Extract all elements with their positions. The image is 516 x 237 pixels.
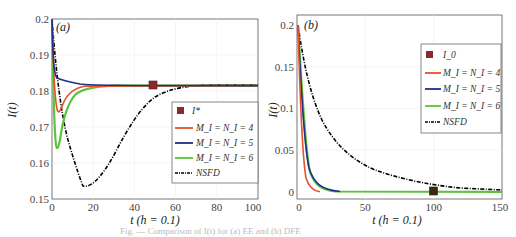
ytick: 0.2 — [35, 13, 49, 25]
xtick: 150 — [492, 201, 509, 213]
legend-label: I* — [191, 106, 200, 116]
ytick: 0.19 — [30, 49, 50, 61]
initial-point-marker-b — [430, 187, 438, 195]
ytick: 0.17 — [30, 121, 50, 133]
x-ticks-a: 0 20 40 60 80 100 — [49, 201, 262, 213]
x-axis-label-a: t (h = 0.1) — [130, 213, 179, 227]
y-ticks-a: 0.2 0.19 0.18 0.17 0.16 0.15 — [30, 13, 50, 205]
ytick: 0.05 — [275, 144, 295, 156]
figure: 0.2 0.19 0.18 0.17 0.16 0.15 0 20 40 60 … — [0, 0, 516, 237]
xtick: 0 — [49, 201, 55, 213]
legend-label: M_I = N_I = 6 — [195, 153, 253, 163]
xtick: 40 — [129, 201, 141, 213]
y-axis-label-b: I(t) — [266, 102, 280, 118]
panel-label-b: (b) — [304, 18, 318, 32]
xtick: 80 — [211, 201, 223, 213]
ytick: 0.18 — [30, 85, 50, 97]
ytick: 0 — [289, 186, 295, 198]
ytick: 0.2 — [280, 19, 294, 31]
legend-label: M_I = N_I = 5 — [442, 84, 500, 94]
legend-a: I* M_I = N_I = 4 M_I = N_I = 5 M_I = N_I… — [172, 102, 258, 183]
xtick: 0 — [296, 201, 302, 213]
legend-label: NSFD — [195, 168, 220, 178]
y-axis-label-a: I(t) — [5, 102, 19, 118]
equilibrium-marker-a — [149, 81, 157, 89]
legend-label: M_I = N_I = 4 — [195, 123, 253, 133]
legend-label: M_I = N_I = 4 — [442, 68, 500, 78]
panel-a: 0.2 0.19 0.18 0.17 0.16 0.15 0 20 40 60 … — [5, 13, 262, 227]
ytick: 0.16 — [30, 157, 50, 169]
figure-caption-partial: Fig. — Comparison of I(t) for (a) EE and… — [120, 226, 301, 236]
legend-label: M_I = N_I = 5 — [195, 138, 253, 148]
legend-label: M_I = N_I = 6 — [442, 101, 500, 111]
panel-b: 0.2 0.15 0.1 0.05 0 0 50 100 150 t (h = … — [266, 15, 509, 227]
ytick: 0.1 — [280, 102, 294, 114]
x-ticks-b: 0 50 100 150 — [296, 201, 509, 213]
legend-label: NSFD — [442, 117, 467, 127]
legend-b: I_0 M_I = N_I = 4 M_I = N_I = 5 M_I = N_… — [421, 44, 501, 133]
xtick: 100 — [425, 201, 442, 213]
ytick: 0.15 — [275, 61, 295, 73]
panel-label-a: (a) — [56, 20, 70, 34]
x-axis-label-b: t (h = 0.1) — [372, 213, 421, 227]
xtick: 60 — [170, 201, 182, 213]
xtick: 100 — [245, 201, 262, 213]
ytick: 0.15 — [30, 193, 50, 205]
xtick: 20 — [88, 201, 100, 213]
legend-label: I_0 — [442, 50, 456, 60]
xtick: 50 — [360, 201, 372, 213]
